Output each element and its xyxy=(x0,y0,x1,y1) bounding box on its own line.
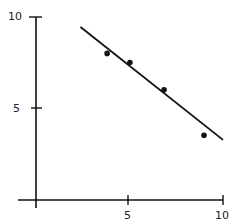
data-point xyxy=(127,60,133,66)
data-point xyxy=(161,87,167,93)
y-tick-label-10: 10 xyxy=(8,10,22,23)
data-point xyxy=(104,51,110,57)
data-point xyxy=(201,133,207,139)
x-tick-label-5: 5 xyxy=(124,209,131,222)
trend-line xyxy=(81,27,224,140)
axes: 10 5 5 10 xyxy=(8,10,229,222)
y-tick-label-5: 5 xyxy=(13,102,20,115)
scatter-chart: 10 5 5 10 xyxy=(0,0,237,222)
plot-area xyxy=(81,27,224,140)
x-tick-label-10: 10 xyxy=(215,209,229,222)
